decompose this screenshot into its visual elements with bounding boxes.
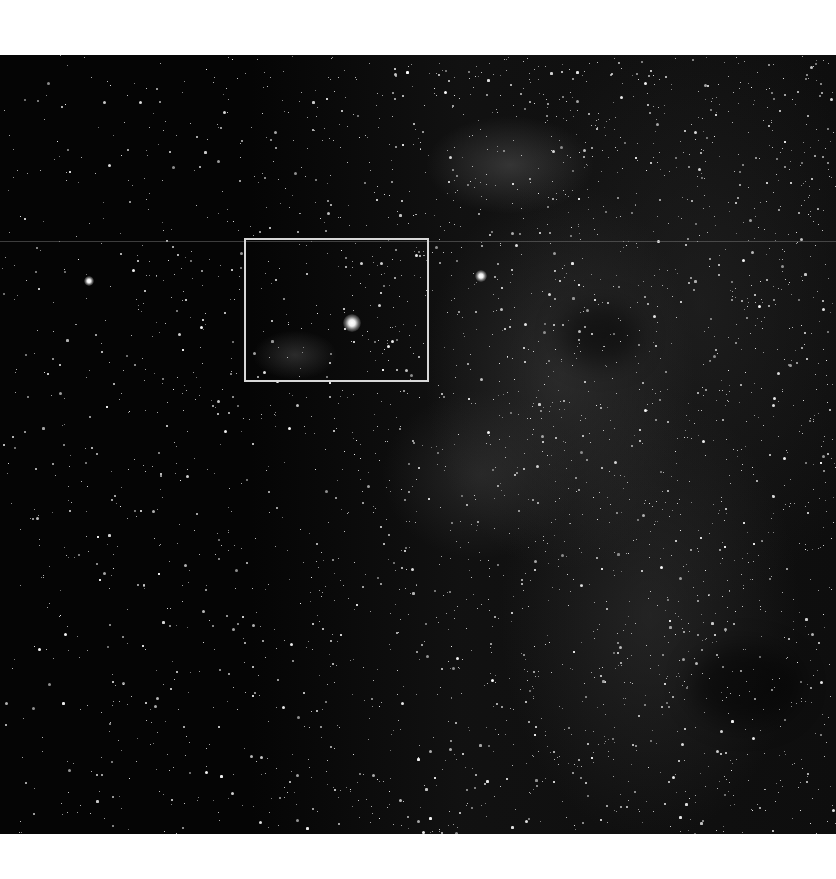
star — [476, 329, 477, 330]
star — [469, 570, 470, 571]
star — [534, 69, 535, 70]
star — [189, 742, 190, 743]
star — [510, 708, 511, 709]
star — [737, 197, 739, 199]
star — [552, 150, 555, 153]
star — [666, 678, 667, 679]
star — [442, 449, 443, 450]
star — [194, 530, 195, 531]
star — [631, 633, 632, 634]
star — [202, 319, 204, 321]
star — [487, 683, 488, 684]
star — [730, 693, 731, 694]
star — [527, 680, 528, 681]
star — [597, 62, 598, 63]
star — [169, 625, 171, 627]
star — [17, 170, 18, 171]
star — [521, 583, 523, 585]
star — [462, 317, 463, 318]
star — [537, 228, 538, 229]
star — [289, 207, 290, 208]
star — [316, 710, 318, 712]
star — [167, 754, 168, 755]
star — [637, 519, 639, 521]
star — [268, 466, 269, 467]
star — [532, 686, 533, 687]
star — [348, 598, 349, 599]
star — [374, 414, 375, 415]
star — [771, 689, 773, 691]
star — [679, 816, 682, 819]
star — [340, 396, 341, 397]
star — [487, 431, 490, 434]
star — [573, 579, 574, 580]
star — [327, 784, 328, 785]
star — [434, 88, 435, 89]
star — [579, 233, 580, 234]
star — [530, 182, 531, 183]
star — [401, 550, 402, 551]
star — [738, 63, 739, 64]
star — [807, 512, 809, 514]
star — [754, 294, 756, 296]
star — [454, 180, 455, 181]
star — [753, 669, 754, 670]
star — [500, 75, 501, 76]
star — [518, 510, 520, 512]
star — [609, 119, 610, 120]
star — [273, 161, 274, 162]
star — [509, 533, 510, 534]
star — [327, 760, 328, 761]
star — [162, 621, 165, 624]
star — [76, 324, 77, 325]
star — [300, 603, 301, 604]
star — [523, 88, 524, 89]
star — [349, 225, 350, 226]
star — [594, 381, 595, 382]
star — [246, 479, 248, 481]
star — [89, 223, 90, 224]
star — [636, 243, 637, 244]
star — [599, 668, 600, 669]
star — [209, 744, 210, 745]
star — [474, 284, 475, 285]
star — [741, 349, 742, 350]
star — [657, 521, 658, 522]
star — [499, 381, 500, 382]
star — [398, 720, 399, 721]
star — [721, 380, 722, 381]
star — [269, 227, 271, 229]
star — [390, 491, 391, 492]
star — [533, 688, 534, 689]
star — [545, 778, 546, 779]
star — [213, 82, 214, 83]
star — [124, 122, 125, 123]
star — [798, 299, 800, 301]
star — [772, 495, 775, 498]
star — [20, 821, 21, 822]
star — [62, 425, 63, 426]
star — [160, 63, 161, 64]
star — [112, 825, 114, 827]
star — [680, 831, 681, 832]
star — [513, 596, 514, 597]
star — [713, 355, 716, 358]
star — [642, 822, 643, 823]
star — [802, 56, 803, 57]
star — [52, 463, 54, 465]
star — [528, 721, 530, 723]
star — [89, 370, 90, 371]
star — [698, 435, 699, 436]
star — [580, 777, 582, 779]
star — [591, 757, 593, 759]
star — [558, 559, 559, 560]
star — [533, 789, 534, 790]
star — [691, 200, 693, 202]
star — [89, 416, 91, 418]
star — [679, 676, 680, 677]
star — [330, 640, 332, 642]
star — [42, 737, 43, 738]
star — [628, 553, 629, 554]
star — [689, 481, 690, 482]
star — [660, 558, 661, 559]
